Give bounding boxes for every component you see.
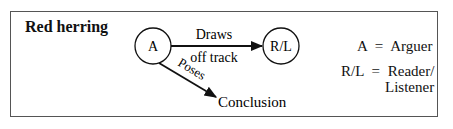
legend-key: R/L <box>341 63 364 79</box>
legend-equals: = <box>372 63 380 79</box>
legend-equals: = <box>375 38 383 54</box>
node-arguer-label: A <box>148 39 159 54</box>
node-reader: R/L <box>263 28 299 64</box>
node-conclusion-label: Conclusion <box>218 94 287 110</box>
legend-row-reader-cont: Listener <box>385 79 434 96</box>
legend-value: Listener <box>385 79 434 95</box>
node-arguer: A <box>135 28 171 64</box>
legend-value: Arguer <box>390 38 432 54</box>
node-reader-label: R/L <box>270 39 292 54</box>
edge-draws-label-1: Draws <box>196 27 233 42</box>
legend-value: Reader/ <box>388 63 435 79</box>
legend-key: A <box>357 38 367 54</box>
legend-row-reader: R/L = Reader/ <box>341 63 434 80</box>
legend-row-arguer: A = Arguer <box>357 38 432 55</box>
